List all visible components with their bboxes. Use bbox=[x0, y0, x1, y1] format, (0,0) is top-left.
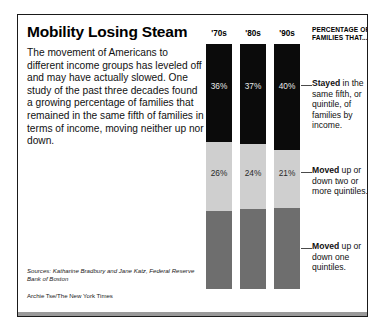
column-header-90s: '90s bbox=[274, 29, 300, 38]
legend-item-moved-two: Moved up or down two or more quintiles. bbox=[312, 165, 368, 197]
legend-item-moved-one: Moved up or down one quintiles. bbox=[312, 241, 368, 273]
deck-paragraph: The movement of Americans to different i… bbox=[27, 47, 205, 148]
leader-line-moved-one bbox=[301, 248, 312, 249]
infographic-panel: Mobility Losing Steam The movement of Am… bbox=[17, 14, 368, 317]
legend-item-stayed-keyword: Stayed bbox=[312, 78, 340, 88]
sources-note: Sources: Katharine Bradbury and Jane Kat… bbox=[27, 267, 207, 283]
legend-item-stayed: Stayed in the same fifth, or quintile, o… bbox=[312, 78, 368, 131]
bar-70s-label-moved-two: 26% bbox=[206, 168, 232, 178]
leader-line-moved-two bbox=[301, 172, 312, 173]
bar-90s: 40% 21% bbox=[274, 44, 300, 289]
bar-80s-segment-moved-one bbox=[240, 209, 266, 289]
legend-item-moved-two-keyword: Moved bbox=[312, 165, 339, 175]
bar-90s-segment-moved-two bbox=[274, 150, 300, 208]
bar-70s-label-stayed: 36% bbox=[206, 81, 232, 91]
bar-90s-label-moved-two: 21% bbox=[274, 168, 300, 178]
bar-90s-label-stayed: 40% bbox=[274, 81, 300, 91]
legend-item-moved-one-keyword: Moved bbox=[312, 241, 339, 251]
bar-70s: 36% 26% bbox=[206, 44, 232, 289]
leader-line-stayed bbox=[301, 85, 312, 86]
bar-80s-label-moved-two: 24% bbox=[240, 168, 266, 178]
left-text-column: Mobility Losing Steam The movement of Am… bbox=[27, 23, 205, 148]
column-header-80s: '80s bbox=[240, 29, 266, 38]
bar-80s-segment-stayed bbox=[240, 44, 266, 144]
stacked-bar-chart: PERCENTAGE OF FAMILIES THAT... '70s '80s… bbox=[206, 23, 361, 311]
bar-70s-segment-moved-one bbox=[206, 211, 232, 289]
bar-80s-label-stayed: 37% bbox=[240, 81, 266, 91]
bar-90s-segment-moved-one bbox=[274, 208, 300, 289]
bar-80s: 37% 24% bbox=[240, 44, 266, 289]
bar-90s-segment-stayed bbox=[274, 44, 300, 150]
bar-70s-segment-stayed bbox=[206, 44, 232, 142]
legend-header: PERCENTAGE OF FAMILIES THAT... bbox=[312, 26, 368, 42]
credit-line: Archie Tse/The New York Times bbox=[27, 292, 207, 300]
column-header-70s: '70s bbox=[206, 29, 232, 38]
page-title: Mobility Losing Steam bbox=[27, 23, 205, 40]
bottom-rule bbox=[18, 312, 367, 316]
